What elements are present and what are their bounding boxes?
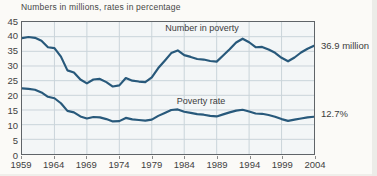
x-tick-label: 1974	[103, 159, 135, 170]
x-tick-mark	[152, 156, 153, 159]
x-tick-label: 1984	[168, 159, 200, 170]
x-tick-mark	[21, 156, 22, 159]
x-tick-label: 1999	[266, 159, 298, 170]
x-tick-label: 1969	[70, 159, 102, 170]
x-tick-label: 1994	[234, 159, 266, 170]
poverty-chart: Numbers in millions, rates in percentage…	[0, 0, 377, 176]
series-line-poverty-rate	[22, 88, 314, 121]
x-tick-mark	[86, 156, 87, 159]
plot-area	[21, 21, 315, 155]
chart-title: Numbers in millions, rates in percentage	[21, 2, 181, 12]
series-line-number-in-poverty	[22, 37, 314, 87]
x-tick-mark	[282, 156, 283, 159]
x-tick-label: 1959	[5, 159, 37, 170]
plot-svg	[22, 22, 314, 154]
number-in-poverty-series-label: Number in poverty	[165, 23, 239, 33]
x-tick-mark	[217, 156, 218, 159]
y-tick-label: 20	[1, 90, 18, 101]
y-tick-label: 35	[1, 45, 18, 56]
poverty-rate-series-label: Poverty rate	[177, 96, 226, 106]
x-tick-label: 2004	[299, 159, 331, 170]
y-tick-label: 10	[1, 120, 18, 131]
y-tick-label: 25	[1, 75, 18, 86]
x-tick-mark	[184, 156, 185, 159]
x-tick-label: 1989	[201, 159, 233, 170]
x-tick-label: 1979	[136, 159, 168, 170]
x-tick-mark	[315, 156, 316, 159]
x-tick-label: 1964	[38, 159, 70, 170]
y-tick-label: 30	[1, 60, 18, 71]
scan-edge-artifact-right	[372, 0, 377, 176]
number-end-value-label: 36.9 million	[321, 40, 369, 51]
y-tick-label: 40	[1, 30, 18, 41]
y-tick-label: 15	[1, 105, 18, 116]
x-tick-mark	[119, 156, 120, 159]
y-tick-label: 5	[1, 135, 18, 146]
scan-edge-artifact-bottom	[0, 174, 377, 176]
x-tick-mark	[250, 156, 251, 159]
rate-end-value-label: 12.7%	[321, 108, 348, 119]
y-tick-label: 45	[1, 16, 18, 27]
x-tick-mark	[54, 156, 55, 159]
